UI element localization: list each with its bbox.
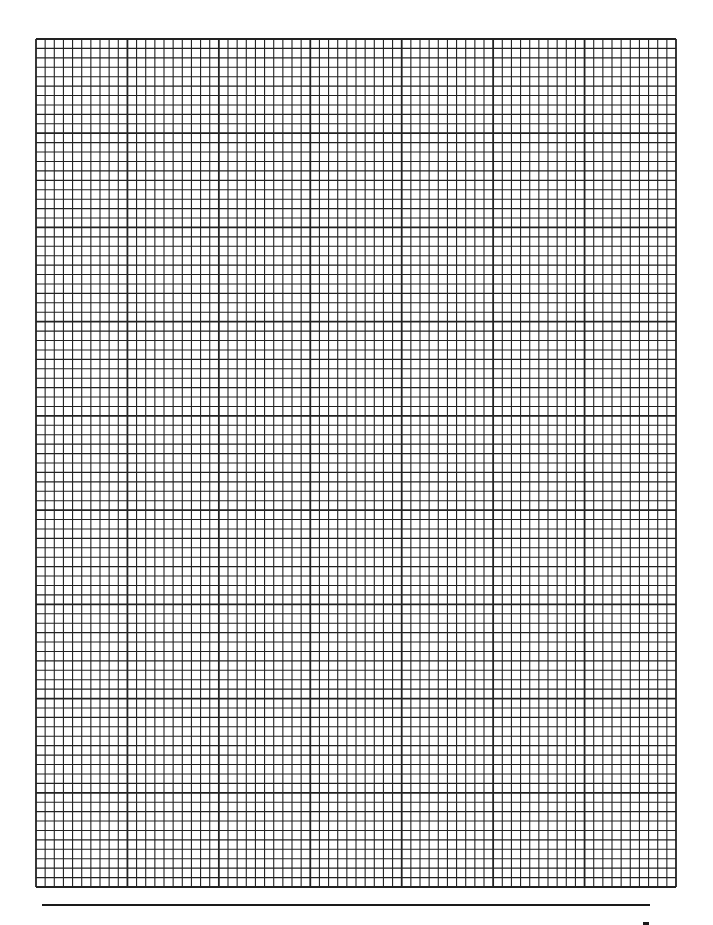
graph-grid xyxy=(0,0,713,925)
footer-rule-line xyxy=(42,904,650,906)
